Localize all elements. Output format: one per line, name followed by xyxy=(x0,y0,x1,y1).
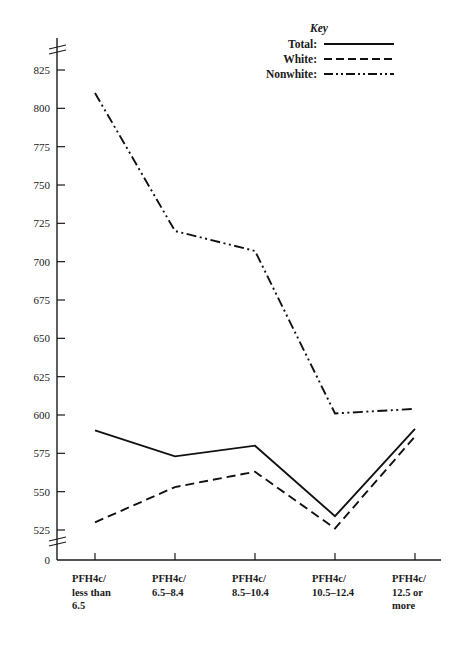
y-tick-label: 575 xyxy=(34,447,51,459)
y-tick-label: 625 xyxy=(34,371,51,383)
legend-item-total: Total: xyxy=(243,36,433,51)
x-category-label-4: PFH4c/ 10.5–12.4 xyxy=(312,572,398,599)
y-tick-label: 600 xyxy=(34,409,51,421)
chart-container: 525550575600625650675700725750775800825 … xyxy=(0,0,449,645)
y-axis-ticks: 525550575600625650675700725750775800825 xyxy=(34,64,66,536)
line-chart-svg: 525550575600625650675700725750775800825 … xyxy=(0,0,449,645)
legend-label-nonwhite: Nonwhite: xyxy=(243,68,323,80)
data-series-group xyxy=(95,93,415,528)
legend-item-white: White: xyxy=(243,51,433,66)
x-category-label-1: PFH4c/ less than 6.5 xyxy=(72,572,158,613)
y-tick-label: 650 xyxy=(34,332,51,344)
x-category-label-5: PFH4c/ 12.5 or more xyxy=(392,572,449,613)
legend-item-nonwhite: Nonwhite: xyxy=(243,66,433,81)
y-tick-label: 700 xyxy=(34,256,51,268)
legend-title: Key xyxy=(243,22,395,34)
legend-label-total: Total: xyxy=(243,38,323,50)
legend-swatch-nonwhite-line xyxy=(323,68,395,80)
legend-label-white: White: xyxy=(243,53,323,65)
y-tick-label: 550 xyxy=(34,486,51,498)
x-category-label-2: PFH4c/ 6.5–8.4 xyxy=(152,572,238,599)
y-tick-label: 525 xyxy=(34,524,51,536)
y-tick-label: 675 xyxy=(34,294,51,306)
x-category-label-3: PFH4c/ 8.5–10.4 xyxy=(232,572,318,599)
x-axis-ticks xyxy=(95,553,415,560)
y-axis-zero-label: 0 xyxy=(45,554,51,566)
legend: Key Total: White: Nonwhite: xyxy=(243,22,433,81)
y-tick-label: 775 xyxy=(34,141,51,153)
legend-swatch-total-line xyxy=(323,38,395,50)
y-tick-label: 750 xyxy=(34,179,51,191)
legend-swatch-white-line xyxy=(323,53,395,65)
series-line-nonwhite xyxy=(95,93,415,413)
y-tick-label: 825 xyxy=(34,64,51,76)
y-tick-label: 800 xyxy=(34,102,51,114)
y-tick-label: 725 xyxy=(34,217,51,229)
